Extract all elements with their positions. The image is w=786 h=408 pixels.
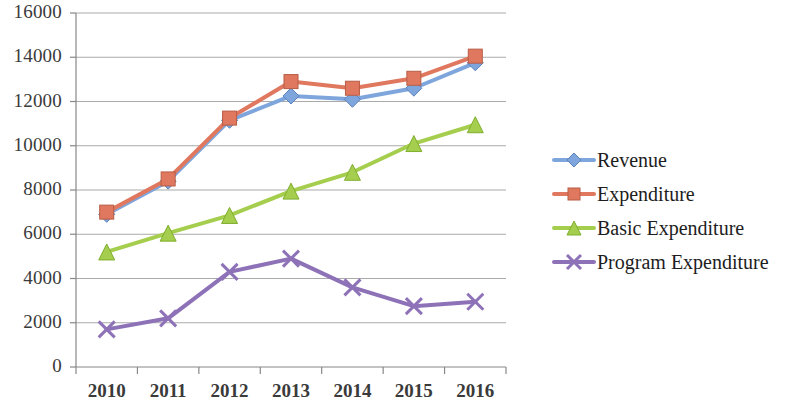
data-point-square (345, 81, 359, 95)
series-layer (99, 49, 484, 337)
gridlines (76, 13, 506, 323)
chart-legend: RevenueExpenditureBasic ExpenditureProgr… (552, 143, 784, 279)
y-tick-label: 0 (0, 355, 62, 377)
x-tick-label: 2011 (137, 380, 198, 402)
data-point-square (568, 188, 580, 200)
data-point-square (284, 75, 298, 89)
legend-label: Revenue (596, 150, 667, 170)
data-point-square (407, 71, 421, 85)
legend-label: Expenditure (596, 184, 695, 204)
x-tick-label: 2010 (76, 380, 137, 402)
y-tick-label: 12000 (0, 90, 62, 112)
legend-item-program-expenditure[interactable]: Program Expenditure (552, 245, 784, 279)
data-point-square (223, 111, 237, 125)
legend-marker-square-icon (552, 184, 596, 204)
x-tick-label: 2012 (199, 380, 260, 402)
data-point-square (100, 205, 114, 219)
y-tick-label: 16000 (0, 1, 62, 23)
legend-item-basic-expenditure[interactable]: Basic Expenditure (552, 211, 784, 245)
y-tick-label: 8000 (0, 178, 62, 200)
y-tick-label: 2000 (0, 311, 62, 333)
legend-marker-cross-icon (552, 252, 596, 272)
legend-item-revenue[interactable]: Revenue (552, 143, 784, 177)
y-tick-label: 14000 (0, 45, 62, 67)
series-line (107, 259, 476, 330)
data-point-diamond (567, 153, 581, 167)
x-tick-label: 2013 (260, 380, 321, 402)
legend-label: Basic Expenditure (596, 218, 744, 238)
data-point-square (161, 172, 175, 186)
x-tick-label: 2015 (383, 380, 444, 402)
y-tick-label: 4000 (0, 267, 62, 289)
data-point-square (468, 49, 482, 63)
legend-label: Program Expenditure (596, 252, 769, 272)
y-tick-label: 6000 (0, 222, 62, 244)
y-tick-label: 10000 (0, 134, 62, 156)
line-chart: 0200040006000800010000120001400016000 20… (0, 0, 786, 408)
series-program-expenditure (99, 251, 484, 338)
legend-marker-triangle-icon (552, 218, 596, 238)
x-tick-label: 2016 (445, 380, 506, 402)
x-tick-label: 2014 (322, 380, 383, 402)
legend-marker-diamond-icon (552, 150, 596, 170)
legend-item-expenditure[interactable]: Expenditure (552, 177, 784, 211)
